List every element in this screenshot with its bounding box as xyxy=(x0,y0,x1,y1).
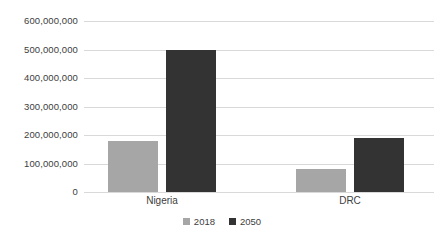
gridline xyxy=(84,135,434,136)
x-axis-labels: Nigeria DRC xyxy=(84,194,434,210)
y-tick-label: 500,000,000 xyxy=(0,45,78,55)
y-tick-label: 100,000,000 xyxy=(0,159,78,169)
bar-drc-2018 xyxy=(296,169,346,192)
axis-baseline xyxy=(84,192,434,193)
bar-chart: 600,000,000 500,000,000 400,000,000 300,… xyxy=(0,0,444,239)
y-tick-label: 300,000,000 xyxy=(0,102,78,112)
gridline xyxy=(84,107,434,108)
legend-item-2018: 2018 xyxy=(183,216,215,227)
bar-drc-2050 xyxy=(354,138,404,192)
x-tick-label-nigeria: Nigeria xyxy=(112,194,212,207)
gridline xyxy=(84,21,434,22)
legend-swatch-2050 xyxy=(229,218,236,225)
y-tick-label: 0 xyxy=(0,187,78,197)
legend-swatch-2018 xyxy=(183,218,190,225)
chart-legend: 2018 2050 xyxy=(0,216,444,227)
gridline xyxy=(84,50,434,51)
y-tick-label: 600,000,000 xyxy=(0,16,78,26)
legend-label-2018: 2018 xyxy=(194,216,215,227)
bar-nigeria-2018 xyxy=(108,141,158,192)
bar-nigeria-2050 xyxy=(166,50,216,193)
legend-label-2050: 2050 xyxy=(240,216,261,227)
y-tick-label: 200,000,000 xyxy=(0,130,78,140)
y-axis-labels: 600,000,000 500,000,000 400,000,000 300,… xyxy=(0,0,78,239)
plot-area xyxy=(84,21,434,192)
x-tick-label-drc: DRC xyxy=(300,194,400,207)
gridline xyxy=(84,78,434,79)
legend-item-2050: 2050 xyxy=(229,216,261,227)
y-tick-label: 400,000,000 xyxy=(0,73,78,83)
